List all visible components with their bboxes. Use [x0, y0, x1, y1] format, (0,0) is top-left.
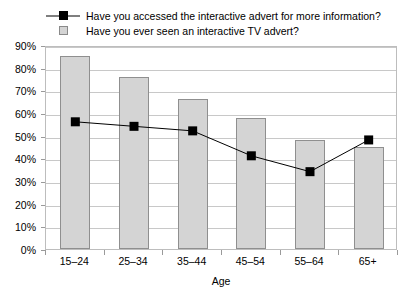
line-marker	[364, 135, 373, 144]
legend-label-line-series: Have you accessed the interactive advert…	[80, 10, 381, 22]
y-tick-label: 70%	[15, 86, 36, 96]
x-tick-label: 25–34	[118, 255, 147, 268]
line-path	[75, 122, 368, 172]
x-tick-label: 45–54	[236, 255, 265, 268]
x-axis-title: Age	[45, 275, 397, 287]
line-marker	[247, 151, 256, 160]
x-tick-mark	[162, 250, 163, 255]
x-tick-label: 15–24	[60, 255, 89, 268]
line-series-key-icon	[46, 11, 80, 20]
x-axis-labels: 15–2425–3435–4445–5455–6465+	[45, 255, 397, 271]
y-tick-label: 20%	[15, 200, 36, 210]
line-marker	[306, 167, 315, 176]
x-tick-label: 65+	[359, 255, 377, 268]
x-tick-mark	[338, 250, 339, 255]
x-tick-label: 35–44	[177, 255, 206, 268]
line-marker	[130, 122, 139, 131]
x-tick-mark	[221, 250, 222, 255]
y-tick-label: 80%	[15, 64, 36, 74]
x-tick-mark	[280, 250, 281, 255]
chart-legend: Have you accessed the interactive advert…	[46, 8, 381, 38]
y-tick-label: 40%	[15, 154, 36, 164]
y-tick-label: 0%	[21, 245, 36, 255]
line-marker	[188, 126, 197, 135]
legend-label-bar-series: Have you ever seen an interactive TV adv…	[80, 25, 299, 37]
x-tick-mark	[397, 250, 398, 255]
y-tick-label: 30%	[15, 177, 36, 187]
y-tick-label: 10%	[15, 222, 36, 232]
x-tick-label: 55–64	[294, 255, 323, 268]
chart-container: Have you accessed the interactive advert…	[0, 0, 415, 301]
legend-item-bar-series: Have you ever seen an interactive TV adv…	[46, 23, 381, 38]
line-marker	[71, 117, 80, 126]
x-tick-mark	[104, 250, 105, 255]
y-tick-label: 90%	[15, 41, 36, 51]
plot-area	[45, 46, 397, 250]
y-tick-label: 60%	[15, 109, 36, 119]
line-series-svg	[46, 47, 398, 251]
x-tick-mark	[45, 250, 46, 255]
line-series-layer	[46, 47, 396, 249]
legend-item-line-series: Have you accessed the interactive advert…	[46, 8, 381, 23]
bar-series-key-icon	[46, 26, 80, 35]
y-axis: 0%10%20%30%40%50%60%70%80%90%	[0, 46, 41, 250]
y-tick-label: 50%	[15, 132, 36, 142]
